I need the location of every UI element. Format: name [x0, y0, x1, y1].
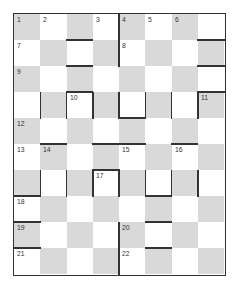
grid-cell[interactable] [67, 40, 93, 66]
grid-cell[interactable] [198, 222, 224, 248]
grid-cell[interactable]: 14 [40, 144, 66, 170]
grid-cell[interactable] [198, 66, 224, 92]
grid-cell[interactable] [145, 196, 171, 222]
grid-cell[interactable]: 11 [198, 92, 224, 118]
thick-border-v [40, 92, 42, 119]
grid-cell[interactable] [119, 118, 145, 144]
grid-cell[interactable] [172, 248, 198, 274]
grid-cell[interactable] [119, 66, 145, 92]
grid-cell[interactable] [119, 196, 145, 222]
grid-cell[interactable] [198, 248, 224, 274]
grid-cell[interactable] [145, 248, 171, 274]
grid-cell[interactable] [145, 222, 171, 248]
crossword-grid: 12345678910111213141516171819202122 [13, 13, 226, 276]
grid-cell[interactable] [145, 40, 171, 66]
grid-cell[interactable] [172, 40, 198, 66]
clue-number: 12 [17, 120, 25, 128]
grid-cell[interactable] [93, 248, 119, 274]
grid-cell[interactable] [93, 92, 119, 118]
grid-cell[interactable]: 15 [119, 144, 145, 170]
grid-cell[interactable] [93, 196, 119, 222]
grid-cell[interactable] [67, 14, 93, 40]
thick-border-v [171, 92, 173, 119]
grid-cell[interactable] [172, 222, 198, 248]
grid-cell[interactable]: 1 [14, 14, 40, 40]
grid-cell[interactable]: 19 [14, 222, 40, 248]
grid-cell[interactable] [14, 92, 40, 118]
grid-cell[interactable]: 22 [119, 248, 145, 274]
grid-cell[interactable] [172, 196, 198, 222]
grid-cell[interactable]: 2 [40, 14, 66, 40]
grid-cell[interactable] [145, 118, 171, 144]
grid-cell[interactable] [172, 92, 198, 118]
grid-cell[interactable] [40, 248, 66, 274]
thick-border-h [145, 195, 172, 197]
grid-cell[interactable]: 9 [14, 66, 40, 92]
grid-cell[interactable] [93, 66, 119, 92]
grid-cell[interactable]: 18 [14, 196, 40, 222]
grid-cell[interactable]: 8 [119, 40, 145, 66]
grid-cell[interactable] [67, 222, 93, 248]
grid-cell[interactable] [198, 118, 224, 144]
grid-cell[interactable]: 17 [93, 170, 119, 196]
grid-cell[interactable] [198, 196, 224, 222]
thick-border-h [14, 221, 41, 223]
grid-cell[interactable] [93, 144, 119, 170]
clue-number: 5 [148, 16, 152, 24]
grid-cell[interactable] [145, 170, 171, 196]
grid-cell[interactable] [40, 66, 66, 92]
clue-number: 15 [122, 146, 130, 154]
grid-cell[interactable] [14, 170, 40, 196]
grid-cell[interactable] [40, 118, 66, 144]
thick-border-v [145, 170, 147, 197]
grid-cell[interactable]: 16 [172, 144, 198, 170]
grid-cell[interactable] [172, 118, 198, 144]
grid-cell[interactable] [93, 222, 119, 248]
clue-number: 2 [43, 16, 47, 24]
grid-cell[interactable] [67, 144, 93, 170]
grid-cell[interactable] [198, 14, 224, 40]
thick-border-v [118, 222, 120, 249]
grid-cell[interactable] [119, 92, 145, 118]
grid-cell[interactable] [119, 170, 145, 196]
grid-cell[interactable] [67, 196, 93, 222]
grid-cell[interactable] [198, 40, 224, 66]
grid-cell[interactable]: 6 [172, 14, 198, 40]
grid-cell[interactable] [198, 170, 224, 196]
grid-cell[interactable]: 5 [145, 14, 171, 40]
thick-border-v [118, 14, 120, 41]
clue-number: 17 [96, 172, 104, 180]
grid-cell[interactable] [93, 118, 119, 144]
grid-cell[interactable] [67, 248, 93, 274]
grid-cell[interactable]: 20 [119, 222, 145, 248]
grid-cell[interactable] [67, 66, 93, 92]
grid-cell[interactable]: 7 [14, 40, 40, 66]
grid-cell[interactable] [145, 66, 171, 92]
grid-cell[interactable] [67, 118, 93, 144]
thick-border-h [66, 39, 93, 41]
thick-border-h [171, 143, 198, 145]
grid-cell[interactable] [40, 92, 66, 118]
thick-border-v [118, 248, 120, 275]
grid-cell[interactable] [40, 170, 66, 196]
grid-cell[interactable] [93, 40, 119, 66]
grid-cell[interactable]: 12 [14, 118, 40, 144]
grid-cell[interactable] [198, 144, 224, 170]
grid-cell[interactable]: 21 [14, 248, 40, 274]
clue-number: 18 [17, 198, 25, 206]
grid-cell[interactable]: 10 [67, 92, 93, 118]
grid-cell[interactable] [172, 170, 198, 196]
grid-cell[interactable] [40, 40, 66, 66]
grid-cell[interactable] [172, 66, 198, 92]
grid-cell[interactable]: 13 [14, 144, 40, 170]
thick-border-h [66, 65, 93, 67]
grid-cell[interactable]: 4 [119, 14, 145, 40]
clue-number: 21 [17, 250, 25, 258]
grid-cell[interactable] [67, 170, 93, 196]
thick-border-v [197, 92, 199, 119]
grid-cell[interactable] [40, 222, 66, 248]
grid-cell[interactable] [40, 196, 66, 222]
grid-cell[interactable]: 3 [93, 14, 119, 40]
grid-cell[interactable] [145, 92, 171, 118]
grid-cell[interactable] [145, 144, 171, 170]
